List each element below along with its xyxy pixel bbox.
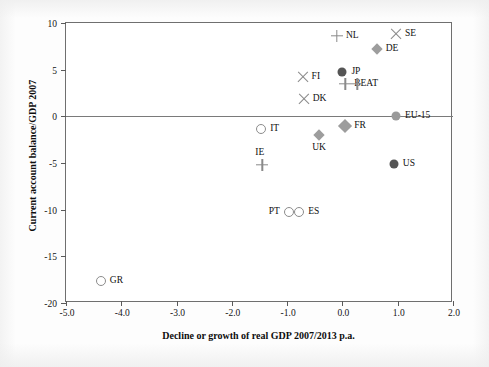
data-point-label: JP bbox=[351, 66, 360, 76]
x-marker-icon bbox=[298, 93, 310, 105]
x-tick: -1.0 bbox=[287, 301, 288, 306]
data-point-label: SE bbox=[405, 28, 416, 38]
y-tick: 5 bbox=[61, 70, 66, 71]
data-point-label: US bbox=[403, 158, 415, 168]
y-tick-label: -20 bbox=[44, 299, 57, 309]
diamond-marker-icon bbox=[338, 119, 352, 133]
data-point-label: ES bbox=[308, 206, 319, 216]
caption-strip bbox=[0, 352, 489, 367]
x-tick: -5.0 bbox=[66, 301, 67, 306]
y-tick: -5 bbox=[61, 163, 66, 164]
x-tick: 0.0 bbox=[342, 301, 343, 306]
y-tick: 10 bbox=[61, 23, 66, 24]
plus-marker-icon bbox=[331, 30, 343, 42]
y-tick: -15 bbox=[61, 256, 66, 257]
y-tick: 0 bbox=[61, 116, 66, 117]
plus-marker-icon bbox=[339, 78, 351, 90]
x-axis-title: Decline or growth of real GDP 2007/2013 … bbox=[65, 330, 452, 341]
x-tick-label: -4.0 bbox=[115, 308, 130, 318]
data-point-label: DE bbox=[386, 43, 399, 53]
open-circle-marker-icon bbox=[256, 124, 266, 134]
x-marker-icon bbox=[297, 71, 309, 83]
data-point-label: UK bbox=[312, 142, 326, 152]
data-point-label: NL bbox=[346, 30, 359, 40]
x-tick-label: 2.0 bbox=[448, 308, 460, 318]
x-tick-label: 1.0 bbox=[393, 308, 405, 318]
x-tick: -4.0 bbox=[121, 301, 122, 306]
open-circle-marker-icon bbox=[96, 276, 106, 286]
y-tick-label: 10 bbox=[48, 19, 58, 29]
data-point-label: DK bbox=[313, 93, 327, 103]
y-tick-label: 0 bbox=[52, 112, 57, 122]
data-point-label: GR bbox=[110, 275, 123, 285]
x-tick: 2.0 bbox=[453, 301, 454, 306]
gray-circle-marker-icon bbox=[392, 112, 401, 121]
diamond-marker-icon bbox=[371, 43, 382, 54]
x-tick-label: 0.0 bbox=[337, 308, 349, 318]
plus-marker-icon bbox=[256, 159, 268, 171]
figure-container: Current account balance/GDP 2007 Decline… bbox=[0, 0, 489, 367]
y-tick-label: 5 bbox=[52, 66, 57, 76]
open-circle-marker-icon bbox=[294, 207, 304, 217]
filled-circle-marker-icon bbox=[389, 159, 398, 168]
x-tick: 1.0 bbox=[398, 301, 399, 306]
open-circle-marker-icon bbox=[284, 207, 294, 217]
data-point-label: IE bbox=[255, 147, 264, 157]
x-tick-label: -1.0 bbox=[281, 308, 296, 318]
y-tick: -10 bbox=[61, 210, 66, 211]
data-point-label: PT bbox=[269, 206, 280, 216]
data-point-label: EU-15 bbox=[405, 110, 430, 120]
data-point-label: FI bbox=[312, 71, 320, 81]
x-tick-label: -2.0 bbox=[225, 308, 240, 318]
plus-marker-icon bbox=[351, 78, 363, 90]
x-tick: -3.0 bbox=[177, 301, 178, 306]
diamond-marker-icon bbox=[314, 129, 325, 140]
y-tick-label: -5 bbox=[49, 159, 57, 169]
y-axis-title: Current account balance/GDP 2007 bbox=[27, 41, 38, 271]
plot-area: 1050-5-10-15-20 -5.0-4.0-3.0-2.0-1.00.01… bbox=[65, 22, 452, 302]
filled-circle-marker-icon bbox=[338, 67, 347, 76]
data-point-label: FR bbox=[354, 120, 366, 130]
x-tick: -2.0 bbox=[232, 301, 233, 306]
data-point-label: IT bbox=[270, 123, 279, 133]
x-marker-icon bbox=[390, 28, 402, 40]
x-tick-label: -3.0 bbox=[170, 308, 185, 318]
data-point-label: AT bbox=[366, 78, 378, 88]
y-tick-label: -15 bbox=[44, 252, 57, 262]
y-tick-label: -10 bbox=[44, 206, 57, 216]
x-tick-label: -5.0 bbox=[59, 308, 74, 318]
